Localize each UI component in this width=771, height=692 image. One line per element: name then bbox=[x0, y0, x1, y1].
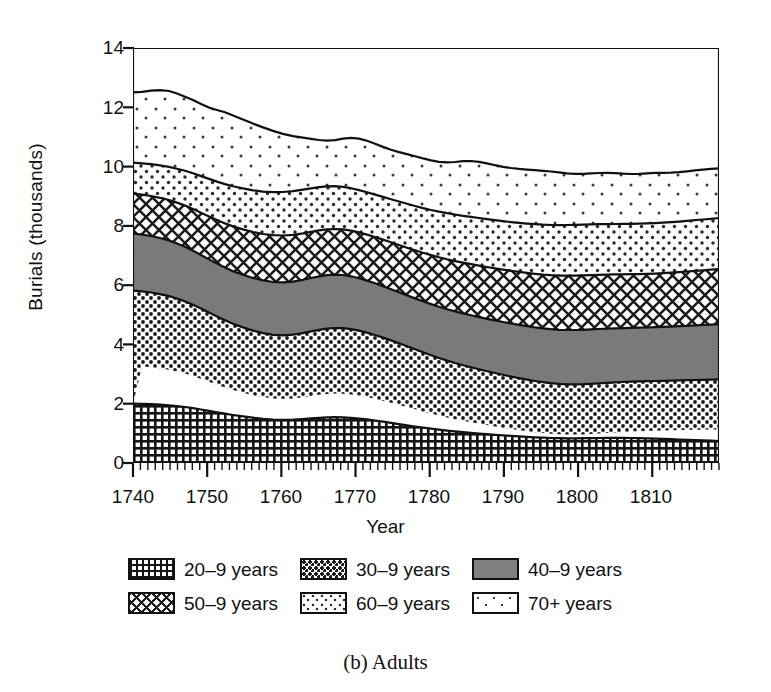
legend-item-20-9[interactable]: 20–9 years bbox=[128, 556, 278, 582]
legend-swatch-60-9 bbox=[300, 592, 347, 614]
x-axis-ticks bbox=[133, 463, 719, 479]
y-tick-6: 6 bbox=[84, 275, 124, 294]
legend-label-20-9: 20–9 years bbox=[184, 560, 278, 579]
figure-caption: (b) Adults bbox=[0, 650, 771, 675]
legend-label-30-9: 30–9 years bbox=[356, 560, 450, 579]
y-tick-4: 4 bbox=[84, 335, 124, 354]
legend-item-50-9[interactable]: 50–9 years bbox=[128, 590, 278, 616]
figure-adults-burials: Burials (thousands) 14 12 10 8 6 4 2 0 bbox=[0, 0, 771, 692]
x-tick-1780: 1780 bbox=[394, 487, 464, 507]
x-axis-title: Year bbox=[0, 516, 771, 538]
legend-label-70-plus: 70+ years bbox=[528, 594, 612, 613]
x-tick-1770: 1770 bbox=[320, 487, 390, 507]
y-tick-10: 10 bbox=[84, 157, 124, 176]
legend-label-60-9: 60–9 years bbox=[356, 594, 450, 613]
legend-item-30-9[interactable]: 30–9 years bbox=[300, 556, 450, 582]
y-tick-8: 8 bbox=[84, 216, 124, 235]
stacked-area-chart bbox=[133, 48, 719, 463]
legend-label-50-9: 50–9 years bbox=[184, 594, 278, 613]
y-tick-2: 2 bbox=[84, 394, 124, 413]
legend: 20–9 years 30–9 years 40–9 years 50–9 ye… bbox=[128, 556, 648, 622]
x-tick-1750: 1750 bbox=[172, 487, 242, 507]
y-tick-12: 12 bbox=[84, 98, 124, 117]
legend-item-40-9[interactable]: 40–9 years bbox=[472, 556, 622, 582]
y-tick-0: 0 bbox=[84, 453, 124, 472]
legend-swatch-40-9 bbox=[472, 558, 519, 580]
legend-label-40-9: 40–9 years bbox=[528, 560, 622, 579]
x-tick-1810: 1810 bbox=[616, 487, 686, 507]
legend-swatch-70-plus bbox=[472, 592, 519, 614]
x-tick-1800: 1800 bbox=[542, 487, 612, 507]
x-tick-1740: 1740 bbox=[98, 487, 168, 507]
legend-swatch-30-9 bbox=[300, 558, 347, 580]
y-tick-14: 14 bbox=[84, 38, 124, 57]
x-tick-1760: 1760 bbox=[246, 487, 316, 507]
legend-swatch-20-9 bbox=[128, 558, 175, 580]
x-axis-tick-labels: 1740 1750 1760 1770 1780 1790 1800 1810 bbox=[0, 487, 771, 513]
x-tick-1790: 1790 bbox=[468, 487, 538, 507]
y-axis-title: Burials (thousands) bbox=[25, 97, 47, 357]
legend-swatch-50-9 bbox=[128, 592, 175, 614]
y-axis-ticks bbox=[122, 47, 135, 464]
plot-area bbox=[133, 48, 719, 463]
legend-item-60-9[interactable]: 60–9 years bbox=[300, 590, 450, 616]
legend-item-70-plus[interactable]: 70+ years bbox=[472, 590, 612, 616]
y-axis-tick-labels: 14 12 10 8 6 4 2 0 bbox=[78, 0, 124, 692]
